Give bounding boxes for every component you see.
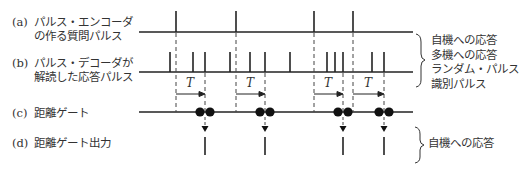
t-label-3: T (324, 76, 333, 90)
t-label-4: T (364, 76, 373, 90)
gate-down-arrows (205, 117, 384, 126)
interval-labels: T T T T (186, 76, 373, 90)
reply-pulses (170, 52, 384, 72)
gate-output-pulses (205, 137, 384, 155)
timing-diagram: T T T T (0, 0, 521, 171)
interrogation-pulses (176, 11, 353, 32)
t-label-2: T (246, 76, 255, 90)
gate-arrow-heads (202, 126, 388, 132)
brace-d (415, 127, 424, 163)
brace-b (416, 34, 425, 87)
t-label-1: T (186, 76, 195, 90)
